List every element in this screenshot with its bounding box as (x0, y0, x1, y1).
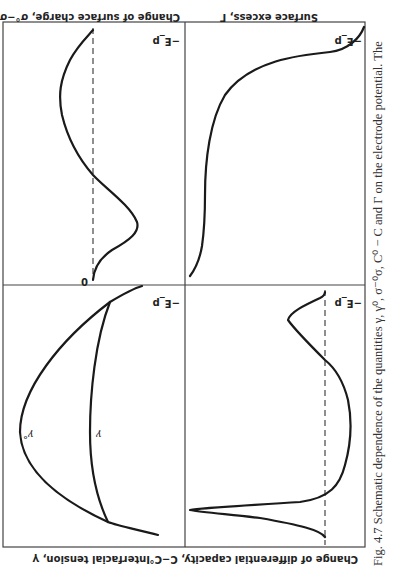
surface-excess-curve (190, 27, 364, 276)
axis-label-surface-charge: Change of surface charge, σ°−σ (0, 12, 180, 23)
axis-label-interfacial-tension: Interfacial tension, γ (32, 554, 150, 565)
ep-label-capacity: −E_p (335, 297, 362, 309)
axis-label-surface-excess: Surface excess, Γ (219, 12, 318, 23)
ep-label-charge: −E_p (153, 35, 180, 47)
ep-label-tension: −E_p (153, 297, 180, 309)
origin-label: 0 (81, 276, 88, 287)
panel-differential-capacity: −E_p Change of differential capacity, C−… (150, 290, 362, 565)
panel-surface-charge: 0 −E_p Change of surface charge, σ°−σ (0, 12, 180, 287)
gamma-curve (90, 302, 110, 522)
figure-caption: Fig. 4.7 Schematic dependence of the qua… (371, 41, 385, 566)
axis-label-differential-capacity: Change of differential capacity, C−C° (150, 554, 358, 565)
ep-label-excess: −E_p (335, 35, 362, 47)
panel-interfacial-tension: γ° γ −E_p Interfacial tension, γ (20, 286, 180, 565)
capacity-curve (190, 292, 351, 537)
panel-surface-excess: −E_p Surface excess, Γ (190, 12, 364, 276)
gamma0-label: γ° (23, 430, 34, 441)
gamma0-curve (20, 286, 158, 535)
figure-4-7: 0 −E_p Change of surface charge, σ°−σ −E… (0, 0, 395, 570)
surface-charge-curve (60, 30, 137, 280)
gamma-label: γ (96, 430, 102, 441)
